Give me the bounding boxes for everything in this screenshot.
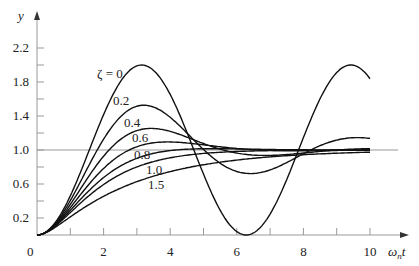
origin-label: 0 — [27, 244, 34, 259]
curve-zeta-0-8 — [37, 149, 370, 235]
y-tick-label: 1.4 — [13, 108, 30, 123]
curve-label: ζ = 0 — [97, 66, 123, 81]
x-tick-label: 2 — [100, 244, 107, 259]
y-axis-arrow-icon — [34, 11, 40, 20]
x-tick-label: 6 — [234, 244, 241, 259]
y-tick-label: 0.2 — [13, 210, 29, 225]
axes: 0.20.61.01.41.82.2246810 — [13, 11, 409, 259]
y-tick-label: 2.2 — [13, 40, 29, 55]
x-tick-label: 8 — [300, 244, 307, 259]
curve-label: 0.8 — [134, 147, 150, 162]
curve-label: 1.0 — [146, 162, 162, 177]
curve-label: 0.2 — [113, 93, 129, 108]
x-axis-label: ωnt — [388, 244, 406, 261]
curve-label: 1.5 — [148, 177, 164, 192]
y-tick-label: 0.6 — [13, 176, 30, 191]
y-axis-label: y — [16, 8, 24, 23]
curve-label: 0.4 — [124, 115, 141, 130]
x-axis-arrow-icon — [400, 232, 409, 238]
x-tick-label: 4 — [167, 244, 174, 259]
x-tick-label: 10 — [364, 244, 377, 259]
curve-zeta-0-2 — [37, 105, 370, 235]
y-tick-label: 1.8 — [13, 74, 29, 89]
curve-label: 0.6 — [132, 130, 149, 145]
step-response-chart: 0.20.61.01.41.82.2246810 ζ = 00.20.40.60… — [0, 0, 419, 266]
y-tick-label: 1.0 — [13, 142, 29, 157]
